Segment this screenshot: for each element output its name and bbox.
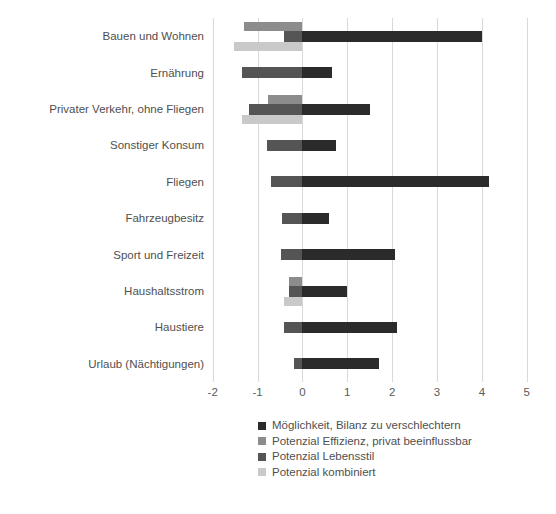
legend-label: Potenzial kombiniert bbox=[272, 465, 376, 481]
bar-potenzial-kombiniert bbox=[242, 115, 303, 124]
y-axis-label: Haustiere bbox=[0, 321, 204, 333]
bar-moeglichkeit-bilanz-verschlechtern bbox=[302, 213, 329, 224]
y-axis-label: Urlaub (Nächtigungen) bbox=[0, 358, 204, 370]
bar-potenzial-effizienz bbox=[244, 22, 302, 31]
bar-potenzial-effizienz bbox=[289, 277, 302, 286]
bar-potenzial-lebensstil bbox=[249, 104, 303, 115]
bar-moeglichkeit-bilanz-verschlechtern bbox=[302, 249, 395, 260]
x-axis-tick-label: 2 bbox=[389, 386, 395, 398]
x-axis-tick-label: 5 bbox=[523, 386, 529, 398]
legend-swatch-icon bbox=[258, 437, 266, 445]
gridline bbox=[527, 18, 528, 382]
y-axis-label: Ernährung bbox=[0, 67, 204, 79]
gridline bbox=[213, 18, 214, 382]
gridline bbox=[482, 18, 483, 382]
legend-item[interactable]: Möglichkeit, Bilanz zu verschlechtern bbox=[258, 418, 472, 434]
bar-potenzial-effizienz bbox=[268, 95, 303, 104]
bar-potenzial-lebensstil bbox=[281, 249, 302, 260]
legend-item[interactable]: Potenzial Effizienz, privat beeinflussba… bbox=[258, 434, 472, 450]
bar-moeglichkeit-bilanz-verschlechtern bbox=[302, 140, 336, 151]
bar-potenzial-lebensstil bbox=[271, 176, 303, 187]
gridline bbox=[437, 18, 438, 382]
bar-potenzial-lebensstil bbox=[242, 67, 302, 78]
x-axis-tick-label: 0 bbox=[299, 386, 305, 398]
legend-swatch-icon bbox=[258, 468, 266, 476]
bar-potenzial-kombiniert bbox=[234, 42, 302, 51]
x-axis-tick-label: -1 bbox=[252, 386, 262, 398]
x-axis-tick-label: 1 bbox=[344, 386, 350, 398]
legend-label: Möglichkeit, Bilanz zu verschlechtern bbox=[272, 418, 461, 434]
bar-moeglichkeit-bilanz-verschlechtern bbox=[302, 31, 481, 42]
y-axis-label: Sport und Freizeit bbox=[0, 249, 204, 261]
legend-swatch-icon bbox=[258, 453, 266, 461]
y-axis-label: Fahrzeugbesitz bbox=[0, 212, 204, 224]
bar-moeglichkeit-bilanz-verschlechtern bbox=[302, 322, 396, 333]
y-axis-label: Bauen und Wohnen bbox=[0, 30, 204, 42]
bar-moeglichkeit-bilanz-verschlechtern bbox=[302, 358, 378, 369]
bar-potenzial-lebensstil bbox=[284, 322, 303, 333]
chart-legend: Möglichkeit, Bilanz zu verschlechternPot… bbox=[258, 418, 472, 480]
legend-item[interactable]: Potenzial Lebensstil bbox=[258, 449, 472, 465]
bar-chart: Bauen und WohnenErnährungPrivater Verkeh… bbox=[0, 0, 556, 514]
legend-label: Potenzial Lebensstil bbox=[272, 449, 374, 465]
bar-moeglichkeit-bilanz-verschlechtern bbox=[302, 176, 488, 187]
bar-potenzial-lebensstil bbox=[289, 286, 302, 297]
bar-moeglichkeit-bilanz-verschlechtern bbox=[302, 67, 331, 78]
y-axis-label: Sonstiger Konsum bbox=[0, 139, 204, 151]
plot-area bbox=[213, 18, 527, 382]
y-axis-label: Haushaltsstrom bbox=[0, 285, 204, 297]
bar-potenzial-lebensstil bbox=[267, 140, 303, 151]
bar-potenzial-lebensstil bbox=[294, 358, 302, 369]
legend-item[interactable]: Potenzial kombiniert bbox=[258, 465, 472, 481]
x-axis-tick-label: 3 bbox=[434, 386, 440, 398]
y-axis-label: Privater Verkehr, ohne Fliegen bbox=[0, 103, 204, 115]
bar-potenzial-lebensstil bbox=[284, 31, 302, 42]
y-axis-label: Fliegen bbox=[0, 176, 204, 188]
bar-moeglichkeit-bilanz-verschlechtern bbox=[302, 286, 347, 297]
bar-potenzial-lebensstil bbox=[282, 213, 302, 224]
legend-swatch-icon bbox=[258, 422, 266, 430]
x-axis-tick-label: -2 bbox=[208, 386, 218, 398]
x-axis-tick-label: 4 bbox=[479, 386, 485, 398]
bar-potenzial-kombiniert bbox=[284, 297, 302, 306]
bar-moeglichkeit-bilanz-verschlechtern bbox=[302, 104, 369, 115]
x-axis: -2-1012345 bbox=[213, 386, 527, 404]
legend-label: Potenzial Effizienz, privat beeinflussba… bbox=[272, 434, 472, 450]
y-axis-category-labels: Bauen und WohnenErnährungPrivater Verkeh… bbox=[0, 18, 204, 382]
